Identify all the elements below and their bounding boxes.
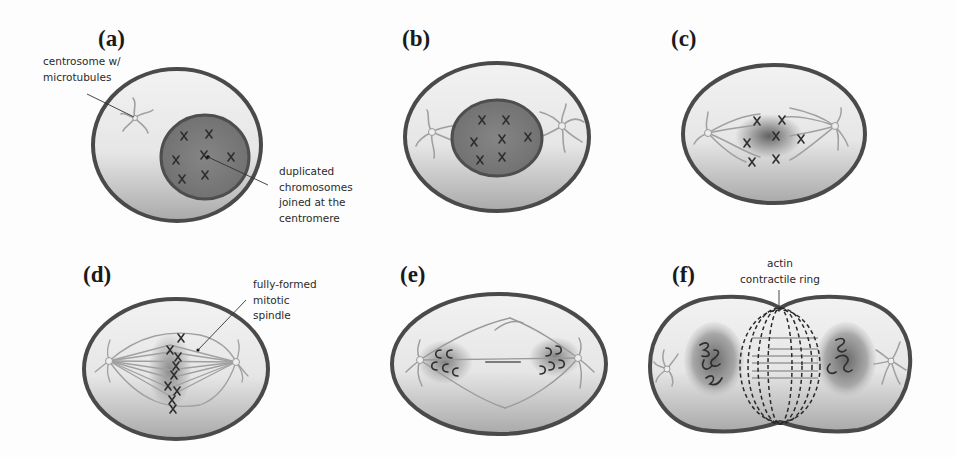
callout-line: joined at the bbox=[279, 195, 353, 211]
panel-c-label: (c) bbox=[671, 27, 697, 50]
panel-a-cell bbox=[87, 69, 268, 221]
panel-d-label: (d) bbox=[83, 263, 111, 286]
panel-a-label: (a) bbox=[98, 27, 125, 50]
centrosome-callout: centrosome w/ microtubules bbox=[43, 54, 121, 85]
panel-b-cell bbox=[405, 63, 589, 211]
callout-line: contractile ring bbox=[730, 272, 830, 288]
mitosis-figure: (a) (b) (c) (d) (e) (f) centrosome w/ mi… bbox=[0, 0, 956, 457]
panel-c-cell bbox=[683, 65, 865, 203]
callout-line: centromere bbox=[279, 211, 353, 227]
callout-line: actin bbox=[730, 256, 830, 272]
panel-f-cell bbox=[650, 290, 910, 432]
panel-e-label: (e) bbox=[400, 263, 426, 286]
panel-b-label: (b) bbox=[402, 27, 430, 50]
panel-d-cell bbox=[84, 299, 268, 439]
callout-line: chromosomes bbox=[279, 180, 353, 196]
panel-e-cell bbox=[392, 294, 606, 434]
chromosome-callout: duplicated chromosomes joined at the cen… bbox=[279, 164, 353, 226]
callout-line: duplicated bbox=[279, 164, 353, 180]
spindle-callout: fully-formed mitotic spindle bbox=[253, 277, 317, 324]
mitosis-illustration bbox=[0, 0, 956, 457]
callout-line: spindle bbox=[253, 308, 317, 324]
actin-ring-callout: actin contractile ring bbox=[730, 256, 830, 287]
panel-f-label: (f) bbox=[672, 263, 695, 286]
callout-line: fully-formed bbox=[253, 277, 317, 293]
callout-line: microtubules bbox=[43, 70, 121, 86]
callout-line: mitotic bbox=[253, 293, 317, 309]
callout-line: centrosome w/ bbox=[43, 54, 121, 70]
